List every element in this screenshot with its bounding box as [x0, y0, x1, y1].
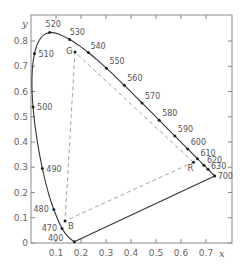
x-tick-label: 0.7	[199, 248, 213, 258]
wavelength-label: 490	[46, 165, 61, 174]
wavelength-label: 530	[70, 28, 85, 37]
chromaticity-diagram: 0.10.20.30.40.50.60.700.10.20.30.40.50.6…	[0, 0, 244, 266]
wavelength-dot	[33, 52, 36, 55]
wavelength-dot	[61, 227, 64, 230]
wavelength-label: 570	[145, 92, 160, 101]
y-tick-label: 0.1	[14, 213, 28, 223]
wavelength-dot	[206, 168, 209, 171]
wavelength-label: 700	[218, 172, 233, 181]
y-axis-label: y	[21, 18, 28, 29]
wavelength-label: 550	[109, 57, 124, 66]
line-of-purples	[74, 176, 214, 242]
x-tick-label: 0.2	[74, 248, 88, 258]
y-tick-label: 0.7	[14, 61, 28, 71]
wavelength-markers: 4004704804905005105205305405505605705805…	[32, 20, 233, 243]
wavelength-label: 580	[162, 109, 177, 118]
wavelength-label: 470	[42, 224, 57, 233]
y-tick-label: 0.8	[14, 36, 29, 46]
wavelength-dot	[48, 31, 51, 34]
x-tick-label: 0.3	[99, 248, 113, 258]
x-tick-label: 0.5	[149, 248, 163, 258]
wavelength-dot	[87, 51, 90, 54]
wavelength-dot	[52, 208, 55, 211]
wavelength-dot	[73, 240, 76, 243]
y-tick-label: 0.5	[14, 112, 28, 122]
x-tick-label: 0.1	[49, 248, 63, 258]
y-tick-label: 0.2	[14, 188, 28, 198]
wavelength-label: 600	[191, 138, 206, 147]
wavelength-label: 520	[46, 20, 61, 29]
axis-ticks	[31, 15, 232, 243]
wavelength-dot	[186, 147, 189, 150]
wavelength-label: 510	[38, 50, 53, 59]
wavelength-dot	[123, 84, 126, 87]
primary-r-label: R	[188, 163, 194, 173]
wavelength-label: 590	[178, 125, 193, 134]
wavelength-label: 500	[37, 103, 52, 112]
diagram-canvas: 0.10.20.30.40.50.60.700.10.20.30.40.50.6…	[0, 0, 244, 266]
primary-b-label: B	[68, 221, 74, 231]
primary-g-label: G	[66, 46, 73, 56]
y-tick-label: 0.6	[14, 87, 29, 97]
wavelength-dot	[158, 119, 161, 122]
wavelength-dot	[41, 167, 44, 170]
primary-b-dot	[64, 220, 67, 223]
wavelength-label: 630	[211, 162, 226, 171]
wavelength-dot	[68, 38, 71, 41]
plot-frame	[31, 15, 232, 243]
y-tick-label: 0	[22, 238, 28, 248]
wavelength-dot	[202, 164, 205, 167]
wavelength-dot	[173, 134, 176, 137]
primary-g-dot	[74, 51, 77, 54]
wavelength-dot	[105, 67, 108, 70]
x-axis-label: x	[219, 248, 225, 259]
wavelength-dot	[196, 157, 199, 160]
wavelength-label: 540	[90, 42, 105, 51]
wavelength-dot	[141, 101, 144, 104]
wavelength-dot	[213, 175, 216, 178]
y-tick-label: 0.3	[14, 162, 28, 172]
y-tick-label: 0.4	[14, 137, 29, 147]
wavelength-dot	[32, 106, 35, 109]
x-tick-label: 0.4	[124, 248, 139, 258]
wavelength-label: 560	[127, 74, 142, 83]
x-tick-label: 0.6	[174, 248, 189, 258]
wavelength-label: 400	[48, 234, 63, 243]
wavelength-label: 480	[34, 205, 49, 214]
